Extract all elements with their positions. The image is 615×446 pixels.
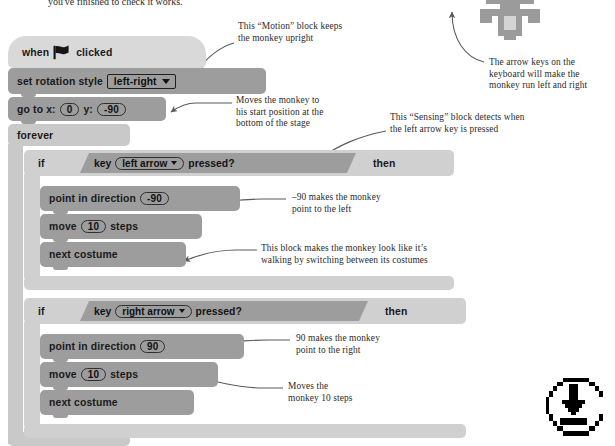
block-key-pressed-right[interactable]: key right arrow pressed?	[80, 301, 368, 321]
block-label-point-in-direction-2: point in direction	[49, 341, 136, 352]
block-move-steps-right[interactable]: move 10 steps	[40, 362, 218, 387]
block-point-in-direction-right[interactable]: point in direction 90	[40, 334, 244, 359]
block-when-flag-clicked[interactable]: when clicked	[8, 36, 206, 68]
if2-bottom-bar	[24, 424, 466, 438]
block-label-then-2: then	[385, 306, 408, 317]
block-label-move-1: move	[49, 221, 77, 232]
if1-label-wrap: if	[24, 150, 84, 176]
note-motion-upright: This “Motion” block keeps the monkey upr…	[238, 21, 398, 44]
page-canvas: you've finished to check it works.	[0, 0, 615, 446]
block-label-go-to-x: go to x:	[17, 104, 56, 115]
note-costume: This block makes the monkey look like it…	[261, 243, 561, 266]
input-move-steps-1[interactable]: 10	[81, 220, 106, 233]
green-flag-icon	[53, 45, 70, 60]
note-minus90: –90 makes the monkey point to the left	[292, 192, 442, 215]
pixel-monkey-figure	[474, 0, 546, 40]
dropdown-rotation-style-value: left-right	[114, 76, 157, 87]
chevron-down-icon	[179, 309, 185, 313]
block-label-point-in-direction-1: point in direction	[49, 193, 136, 204]
if1-then-wrap: then	[364, 150, 434, 176]
forever-left-spine	[8, 144, 23, 444]
block-label-set-rotation-style: set rotation style	[17, 76, 103, 87]
if1-bottom-bar	[24, 276, 454, 290]
block-label-if-1: if	[38, 158, 45, 169]
input-direction-90[interactable]: 90	[140, 340, 165, 353]
block-label-key-2: key	[94, 306, 111, 317]
block-label-steps-1: steps	[110, 221, 138, 232]
block-label-clicked: clicked	[76, 47, 112, 58]
block-label-forever: forever	[17, 130, 53, 141]
dropdown-rotation-style[interactable]: left-right	[107, 74, 176, 89]
block-go-to-xy[interactable]: go to x: 0 y: -90	[8, 97, 166, 121]
block-move-steps-left[interactable]: move 10 steps	[40, 214, 202, 239]
dropdown-key-right-arrow[interactable]: right arrow	[115, 305, 191, 318]
input-move-steps-2[interactable]: 10	[81, 368, 106, 381]
input-direction-minus90[interactable]: -90	[140, 192, 169, 205]
block-label-steps-2: steps	[110, 369, 138, 380]
block-label-move-2: move	[49, 369, 77, 380]
block-label-if-2: if	[38, 306, 45, 317]
block-label-when: when	[22, 47, 49, 58]
note-sensing: This “Sensing” block detects when the le…	[390, 112, 615, 135]
dropdown-key-left-arrow-value: left arrow	[122, 158, 167, 169]
block-key-pressed-left[interactable]: key left arrow pressed?	[80, 153, 356, 173]
download-icon[interactable]	[543, 378, 603, 440]
dropdown-key-left-arrow[interactable]: left arrow	[115, 157, 184, 170]
block-point-in-direction-left[interactable]: point in direction -90	[40, 186, 240, 211]
block-label-then-1: then	[373, 158, 396, 169]
note-move-steps: Moves the monkey 10 steps	[288, 381, 408, 404]
chevron-down-icon	[162, 79, 170, 84]
block-label-pressed-2: pressed?	[196, 306, 242, 317]
block-label-next-costume-1: next costume	[49, 249, 118, 260]
input-go-to-x[interactable]: 0	[60, 103, 80, 116]
block-label-pressed-1: pressed?	[188, 158, 234, 169]
block-label-y: y:	[83, 104, 93, 115]
forever-label-wrap: forever	[8, 124, 130, 146]
block-next-costume-right[interactable]: next costume	[40, 390, 194, 415]
chevron-down-icon	[171, 161, 177, 165]
input-go-to-y[interactable]: -90	[97, 103, 126, 116]
block-next-costume-left[interactable]: next costume	[40, 242, 186, 267]
note-plus90: 90 makes the monkey point to the right	[296, 333, 446, 356]
dropdown-key-right-arrow-value: right arrow	[122, 306, 174, 317]
if1-left-spine	[24, 174, 40, 278]
note-arrow-keys: The arrow keys on the keyboard will make…	[489, 57, 614, 92]
if2-then-wrap: then	[376, 298, 446, 324]
block-label-key-1: key	[94, 158, 111, 169]
if2-left-spine	[24, 322, 40, 426]
block-set-rotation-style[interactable]: set rotation style left-right	[8, 68, 266, 94]
if2-label-wrap: if	[24, 298, 84, 324]
note-start-position: Moves the monkey to his start position a…	[236, 95, 386, 130]
block-label-next-costume-2: next costume	[49, 397, 118, 408]
